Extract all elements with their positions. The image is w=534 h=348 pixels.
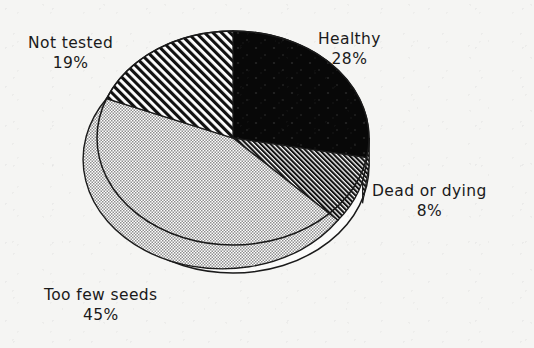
pie-label-dead-or-dying: Dead or dying 8% — [372, 182, 487, 222]
pie-label-too-few-seeds: Too few seeds 45% — [44, 286, 158, 326]
pie-label-too-few-seeds-percent: 45% — [44, 306, 158, 326]
pie-label-not-tested-percent: 19% — [28, 54, 113, 74]
pie-label-healthy: Healthy 28% — [318, 30, 381, 70]
pie-label-not-tested-name: Not tested — [28, 34, 113, 54]
pie-label-healthy-name: Healthy — [318, 30, 381, 50]
pie-label-healthy-percent: 28% — [318, 50, 381, 70]
pie-label-too-few-seeds-name: Too few seeds — [44, 286, 158, 306]
pie-label-dead-or-dying-percent: 8% — [372, 202, 487, 222]
pie-label-dead-or-dying-name: Dead or dying — [372, 182, 487, 202]
pie-label-not-tested: Not tested 19% — [28, 34, 113, 74]
pie-chart-figure: Healthy 28% Not tested 19% Dead or dying… — [0, 0, 534, 348]
